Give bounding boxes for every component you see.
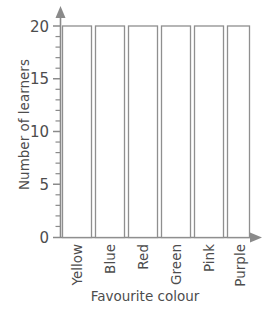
category-label-red: Red	[135, 244, 151, 270]
x-axis-category-labels: Yellow Blue Red Green Pink Purple	[69, 244, 248, 287]
bar-green[interactable]	[162, 26, 191, 238]
y-tick-label-0: 0	[39, 229, 49, 247]
bar-series	[63, 26, 250, 238]
x-axis-arrow-icon	[250, 233, 262, 243]
y-tick-label-5: 5	[39, 176, 49, 194]
y-axis-title: Number of learners	[16, 59, 32, 190]
bar-purple[interactable]	[228, 26, 250, 238]
y-axis-arrow-icon	[56, 6, 66, 18]
category-label-purple: Purple	[232, 244, 248, 287]
bar-red[interactable]	[129, 26, 158, 238]
bar-chart-figure: 20 15 10 5 0 Yellow Blue Red Green Pink …	[0, 0, 270, 309]
category-label-green: Green	[168, 244, 184, 285]
x-axis-title: Favourite colour	[91, 288, 200, 304]
bar-yellow[interactable]	[63, 26, 92, 238]
y-tick-label-10: 10	[30, 123, 49, 141]
category-label-pink: Pink	[201, 244, 217, 272]
y-tick-label-20: 20	[30, 18, 49, 36]
y-tick-label-15: 15	[30, 70, 49, 88]
category-label-yellow: Yellow	[69, 244, 85, 287]
bar-pink[interactable]	[195, 26, 224, 238]
y-axis-tick-labels: 20 15 10 5 0	[30, 18, 49, 248]
bar-blue[interactable]	[96, 26, 125, 238]
category-label-blue: Blue	[102, 244, 118, 274]
chart-canvas: 20 15 10 5 0 Yellow Blue Red Green Pink …	[0, 0, 270, 309]
